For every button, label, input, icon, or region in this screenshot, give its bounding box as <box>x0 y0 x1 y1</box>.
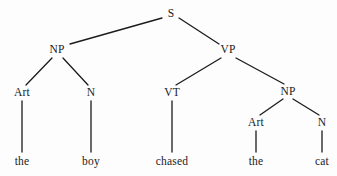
tree-edge-vp-to-vt <box>176 58 221 85</box>
tree-terminal-w2: boy <box>82 156 100 168</box>
tree-node-n2: N <box>318 117 327 129</box>
tree-terminal-w1: the <box>15 156 30 168</box>
tree-edge-vp-to-np2 <box>236 58 284 84</box>
tree-edge-s-to-vp <box>179 18 219 44</box>
tree-node-np2: NP <box>280 86 295 98</box>
tree-node-np1: NP <box>49 44 64 56</box>
tree-node-vt: VT <box>164 87 180 99</box>
tree-node-n1: N <box>87 87 96 99</box>
tree-terminal-w4: the <box>249 156 264 168</box>
tree-terminal-w3: chased <box>156 156 189 168</box>
tree-node-vp: VP <box>220 44 235 56</box>
tree-edge-np2-to-n2 <box>293 99 319 115</box>
tree-node-art2: Art <box>248 117 264 129</box>
tree-edge-np2-to-art2 <box>260 99 283 115</box>
tree-edge-np1-to-n1 <box>63 58 88 85</box>
syntax-tree-diagram: SNPVPArtNVTNPArtNtheboychasedthecat <box>0 0 337 176</box>
tree-node-art1: Art <box>14 87 30 99</box>
tree-node-s: S <box>168 8 175 20</box>
tree-edge-s-to-np1 <box>70 18 162 44</box>
tree-terminal-w5: cat <box>315 156 329 168</box>
tree-edge-np1-to-art1 <box>26 58 52 85</box>
